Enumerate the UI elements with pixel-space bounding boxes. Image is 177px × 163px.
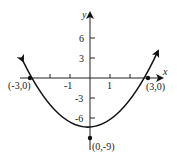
point-label-neg3-0: (-3,0) bbox=[8, 80, 31, 92]
tick-label-neg6: -6 bbox=[75, 113, 83, 124]
point-label-3-0: (3,0) bbox=[146, 81, 165, 93]
tick-label-6: 6 bbox=[79, 33, 84, 44]
point-vertex bbox=[88, 136, 92, 140]
graph: y x 6 3 -3 -6 -1 1 (-3,0) (3,0) (0,-9) bbox=[0, 0, 177, 163]
tick-label-neg1: -1 bbox=[64, 80, 72, 91]
y-axis-label: y bbox=[81, 9, 87, 20]
tick-label-neg3: -3 bbox=[75, 93, 83, 104]
tick-label-3: 3 bbox=[79, 53, 84, 64]
point-label-vertex: (0,-9) bbox=[92, 141, 115, 153]
point-3-0 bbox=[146, 76, 150, 80]
x-axis-label: x bbox=[162, 66, 168, 77]
tick-label-1: 1 bbox=[107, 80, 112, 91]
